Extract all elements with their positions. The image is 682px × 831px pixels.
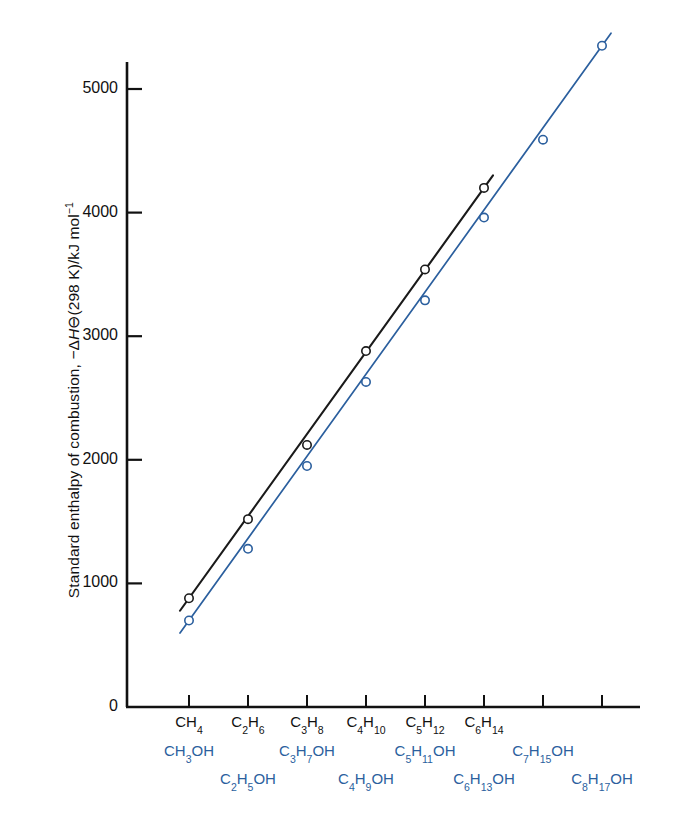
data-point-alkanes-C6H14 [480,184,488,192]
series-line-alcohols [180,33,611,633]
combustion-enthalpy-chart: Standard enthalpy of combustion, −ΔH⊖(29… [0,0,682,831]
y-axis-tick-label: 2000 [40,450,118,468]
x-axis-tick-label-C5H11OH: C5H11OH [395,742,456,759]
data-point-alcohols-C7H15OH [539,135,547,143]
x-axis-tick-label-C5H12: C5H12 [405,713,444,730]
series-line-alkanes [180,175,493,610]
y-axis-tick-label: 1000 [40,573,118,591]
x-axis-tick-label-C2H5OH: C2H5OH [220,770,276,787]
x-axis-tick-label-CH4: CH4 [175,713,203,730]
x-axis-ticks [189,695,602,707]
data-series-group [180,33,611,633]
data-point-alcohols-C4H9OH [362,378,370,386]
data-point-alcohols-C3H7OH [303,462,311,470]
x-axis-tick-label-C3H7OH: C3H7OH [279,742,335,759]
x-axis-tick-label-C6H14: C6H14 [464,713,503,730]
data-point-alcohols-CH3OH [185,616,193,624]
x-axis-tick-label-C4H9OH: C4H9OH [338,770,394,787]
x-axis-row-alcohol-even-row: C2H5OHC4H9OHC6H13OHC8H17OH [0,770,682,796]
x-axis-tick-label-C6H13OH: C6H13OH [453,770,515,787]
x-axis-row-alkane-row: CH4C2H6C3H8C4H10C5H12C6H14 [0,713,682,739]
data-point-alcohols-C2H5OH [244,545,252,553]
data-point-alkanes-CH4 [185,594,193,602]
data-point-alkanes-C2H6 [244,515,252,523]
data-point-alkanes-C3H8 [303,441,311,449]
x-axis-tick-label-C4H10: C4H10 [346,713,385,730]
axes [126,62,640,707]
data-point-alkanes-C4H10 [362,347,370,355]
x-axis-tick-label-C7H15OH: C7H15OH [512,742,574,759]
x-axis-tick-label-CH3OH: CH3OH [164,742,214,759]
data-point-alkanes-C5H12 [421,265,429,273]
x-axis-tick-label-C2H6: C2H6 [231,713,264,730]
y-axis-tick-label: 4000 [40,203,118,221]
x-axis-tick-label-C8H17OH: C8H17OH [571,770,633,787]
x-axis-row-alcohol-odd-row: CH3OHC3H7OHC5H11OHC7H15OH [0,742,682,768]
y-axis-tick-label: 3000 [40,326,118,344]
data-point-alcohols-C6H13OH [480,213,488,221]
y-axis-tick-label: 5000 [40,79,118,97]
y-axis-ticks [127,89,142,583]
x-axis-tick-label-C3H8: C3H8 [290,713,323,730]
data-point-alcohols-C5H11OH [421,296,429,304]
data-point-alcohols-C8H17OH [598,42,606,50]
